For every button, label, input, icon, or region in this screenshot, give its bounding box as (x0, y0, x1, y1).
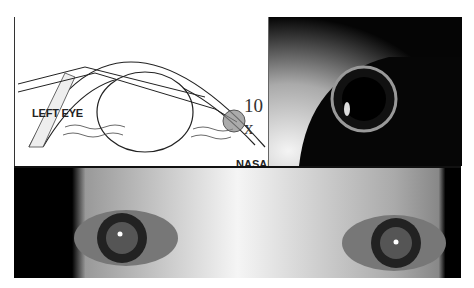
eye-cross-section-diagram: LEFT EYE NASAL 10 x (14, 17, 269, 166)
both-eyes-photo (14, 166, 461, 278)
reflection (344, 102, 350, 116)
right-pupil (106, 222, 138, 254)
cross-section-drawing (15, 17, 269, 166)
iris-tissue-right-2 (191, 135, 231, 139)
closeup-eye-photo (268, 17, 462, 166)
both-eyes-drawing (14, 168, 461, 278)
closeup-eye-drawing (269, 17, 462, 166)
left-reflection (394, 240, 399, 245)
lens (97, 72, 193, 152)
right-reflection (118, 232, 123, 237)
left-eye-label: LEFT EYE (32, 107, 83, 119)
nasal-label: NASAL (236, 158, 269, 166)
nasal-angle-marker (223, 110, 245, 132)
magnification-label: 10 x (244, 95, 269, 139)
